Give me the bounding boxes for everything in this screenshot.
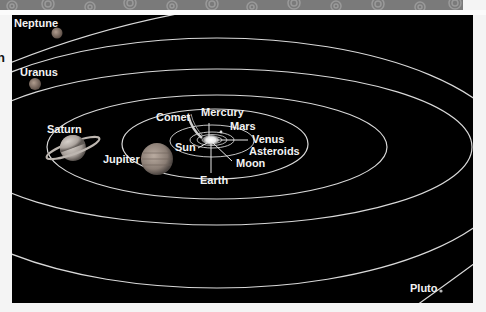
- label-asteroids: Asteroids: [249, 145, 300, 157]
- label-moon: Moon: [236, 157, 265, 169]
- mars-dot: [220, 131, 223, 134]
- label-uranus: Uranus: [20, 66, 58, 78]
- label-saturn: Saturn: [47, 123, 82, 135]
- swirl-pattern-icon: [0, 0, 463, 10]
- label-earth: Earth: [200, 174, 228, 186]
- label-jupiter: Jupiter: [103, 153, 140, 165]
- label-pluto: Pluto: [410, 282, 438, 294]
- pluto-body: [439, 289, 442, 292]
- label-venus: Venus: [252, 133, 284, 145]
- label-sun: Sun: [175, 141, 196, 153]
- label-comet: Comet: [156, 111, 190, 123]
- label-mercury: Mercury: [201, 106, 244, 118]
- decorative-banner: [0, 0, 463, 10]
- label-mars: Mars: [230, 120, 256, 132]
- uranus-body: [29, 78, 41, 90]
- neptune-body: [52, 28, 63, 39]
- label-neptune: Neptune: [14, 17, 58, 29]
- solar-system-diagram: Neptune Uranus Saturn Jupiter Comet Merc…: [12, 15, 473, 303]
- cropped-edge-text: n: [0, 50, 5, 65]
